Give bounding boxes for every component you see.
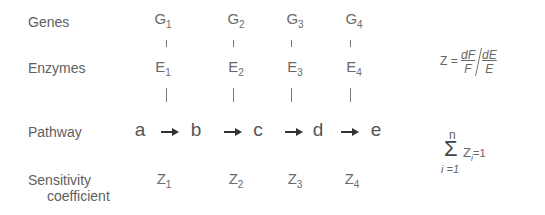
metabolite-b: b (191, 119, 202, 141)
row-label-sensitivity: Sensitivity (28, 172, 91, 188)
summation-lower: i =1 (441, 163, 459, 175)
enzyme-pathway-link-4 (350, 88, 351, 102)
row-label-pathway: Pathway (28, 124, 82, 140)
coefficient-3: Z3 (288, 170, 303, 190)
fraction-dE-E: dEE (482, 48, 497, 76)
arrow-icon (341, 131, 353, 133)
enzyme-pathway-link-2 (233, 88, 234, 102)
row-label-coefficient: coefficient (47, 188, 110, 204)
metabolite-d: d (313, 119, 324, 141)
sigma-icon: Σ (444, 136, 458, 162)
enzyme-pathway-link-1 (166, 88, 167, 102)
metabolite-c: c (253, 119, 263, 141)
enzyme-1: E1 (155, 58, 171, 78)
coefficient-2: Z2 (229, 170, 244, 190)
gene-1: G1 (154, 10, 171, 30)
coefficient-1: Z1 (157, 170, 172, 190)
enzyme-2: E2 (228, 58, 244, 78)
row-label-enzymes: Enzymes (28, 60, 86, 76)
summation-term: Zi=1 (463, 145, 486, 163)
gene-enzyme-link-2 (233, 40, 234, 47)
metabolite-a: a (135, 119, 146, 141)
metabolite-e: e (371, 119, 382, 141)
gene-4: G4 (345, 10, 362, 30)
arrow-icon (161, 131, 173, 133)
fraction-dF-F: dFF (461, 48, 475, 76)
sensitivity-equation: Z = dFFdEE (440, 48, 497, 76)
arrow-icon (285, 131, 297, 133)
row-label-genes: Genes (28, 14, 69, 30)
gene-enzyme-link-1 (166, 40, 167, 47)
coefficient-4: Z4 (345, 170, 360, 190)
arrow-icon (224, 131, 236, 133)
enzyme-pathway-link-3 (291, 88, 292, 102)
enzyme-3: E3 (287, 58, 303, 78)
gene-enzyme-link-4 (350, 40, 351, 47)
enzyme-4: E4 (346, 58, 362, 78)
gene-3: G3 (286, 10, 303, 30)
equation-lhs: Z = (440, 54, 458, 68)
gene-enzyme-link-3 (291, 40, 292, 47)
gene-2: G2 (227, 10, 244, 30)
fraction-divider (475, 48, 482, 76)
